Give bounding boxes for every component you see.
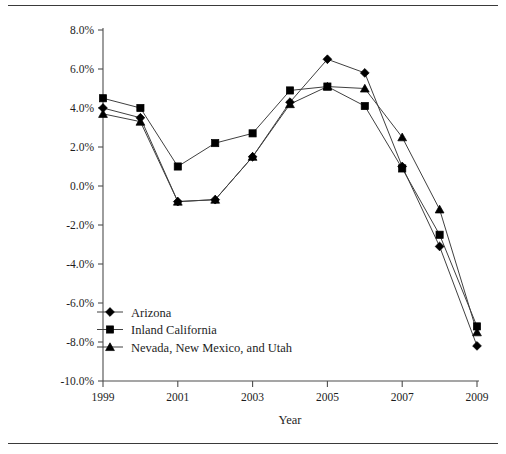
x-tick-label: 2009	[466, 391, 489, 403]
x-tick-label: 1999	[92, 391, 115, 403]
data-point-marker	[174, 163, 181, 170]
y-tick-label: 2.0%	[70, 141, 94, 153]
y-axis-tick-labels: 8.0%6.0%4.0%2.0%0.0%-2.0%-4.0%-6.0%-8.0%…	[60, 24, 94, 387]
x-tick-label: 2005	[316, 391, 339, 403]
x-tick-label: 2001	[166, 391, 189, 403]
y-tick-label: 0.0%	[70, 180, 94, 192]
data-point-marker	[99, 110, 108, 118]
data-point-marker	[137, 104, 144, 111]
legend-label: Nevada, New Mexico, and Utah	[131, 341, 293, 355]
y-tick-label: 6.0%	[70, 63, 94, 75]
legend-marker-square	[106, 326, 113, 333]
data-point-marker	[398, 133, 407, 141]
data-point-marker	[361, 102, 368, 109]
y-tick-label: -6.0%	[66, 297, 94, 309]
figure-container: 8.0%6.0%4.0%2.0%0.0%-2.0%-4.0%-6.0%-8.0%…	[0, 0, 506, 454]
data-point-marker	[249, 130, 256, 137]
y-tick-label: 4.0%	[70, 102, 94, 114]
x-axis-tick-marks	[103, 381, 477, 387]
y-tick-label: -8.0%	[66, 336, 94, 348]
x-tick-label: 2003	[241, 391, 264, 403]
legend-label: Inland California	[131, 323, 217, 337]
legend-label: Arizona	[131, 306, 172, 320]
x-axis-title: Year	[278, 413, 302, 427]
legend-marker-diamond	[106, 308, 115, 317]
data-point-marker	[473, 342, 482, 351]
data-point-marker	[99, 95, 106, 102]
y-axis-tick-marks	[98, 30, 103, 381]
y-tick-label: -4.0%	[66, 258, 94, 270]
x-tick-label: 2007	[391, 391, 414, 403]
x-axis-tick-labels: 199920012003200520072009	[92, 391, 489, 403]
line-chart: 8.0%6.0%4.0%2.0%0.0%-2.0%-4.0%-6.0%-8.0%…	[0, 0, 506, 454]
chart-legend: ArizonaInland CaliforniaNevada, New Mexi…	[97, 306, 293, 355]
y-tick-label: -2.0%	[66, 219, 94, 231]
data-point-marker	[399, 165, 406, 172]
series-line-2	[103, 87, 477, 333]
y-tick-label: -10.0%	[60, 375, 94, 387]
y-tick-label: 8.0%	[70, 24, 94, 36]
data-point-marker	[360, 69, 369, 78]
data-point-marker	[286, 87, 293, 94]
data-point-marker	[435, 205, 444, 213]
data-point-marker	[436, 231, 443, 238]
data-point-marker	[212, 140, 219, 147]
